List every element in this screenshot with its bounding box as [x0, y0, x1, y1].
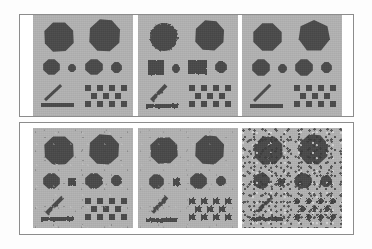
large-blob-right: [298, 20, 330, 51]
diagonal-line: [253, 84, 271, 102]
horizontal-bar: [146, 104, 178, 108]
checkerboard-pattern: [294, 198, 338, 222]
large-blob-right: [88, 19, 121, 52]
medium-shape-4: [111, 175, 122, 186]
large-blob-left: [150, 23, 178, 51]
panel-content: [33, 15, 133, 116]
checkerboard-pattern: [85, 198, 129, 222]
horizontal-bar: [146, 218, 177, 222]
medium-shape-2: [172, 64, 180, 73]
panel-bottom-center: [138, 128, 238, 228]
checkerboard-pattern: [85, 85, 129, 109]
panel-bottom-right: [242, 128, 342, 228]
panel-top-center: [138, 15, 238, 116]
medium-shape-1: [149, 174, 164, 189]
medium-shape-1: [252, 59, 270, 76]
medium-shape-3: [85, 173, 103, 189]
panel-bottom-left: [33, 128, 133, 228]
diagonal-line: [151, 196, 168, 214]
medium-shape-2: [278, 64, 287, 73]
medium-shape-3: [85, 59, 103, 75]
medium-shape-4: [216, 176, 226, 186]
panel-content: [33, 128, 133, 228]
large-blob-left: [150, 137, 178, 164]
medium-shape-2: [173, 178, 180, 186]
large-blob-right: [88, 134, 120, 165]
medium-shape-4: [320, 175, 332, 187]
medium-shape-3: [188, 60, 207, 74]
horizontal-bar: [250, 104, 283, 108]
diagonal-line: [44, 84, 62, 101]
checkerboard-pattern: [189, 198, 233, 222]
medium-shape-1: [148, 60, 164, 75]
panel-content: [242, 15, 342, 116]
large-blob-right: [194, 20, 225, 51]
large-blob-right: [194, 135, 225, 165]
large-blob-left: [44, 22, 74, 52]
panel-content: [242, 128, 342, 228]
medium-shape-4: [321, 62, 332, 73]
medium-shape-1: [43, 59, 60, 75]
large-blob-left: [44, 136, 74, 165]
horizontal-bar: [41, 217, 74, 221]
diagonal-line: [45, 196, 63, 214]
medium-shape-2: [68, 178, 76, 186]
diagonal-line: [254, 196, 273, 215]
medium-shape-3: [295, 59, 313, 76]
morphology-figure: [0, 0, 372, 249]
medium-shape-3: [294, 173, 312, 189]
panel-top-right: [242, 15, 342, 116]
figure-row-bottom: [19, 122, 354, 235]
medium-shape-1: [253, 173, 270, 189]
figure-row-top: [19, 14, 354, 117]
checkerboard-pattern: [294, 85, 338, 109]
diagonal-line: [150, 84, 167, 102]
medium-shape-4: [111, 62, 122, 73]
large-blob-left: [254, 136, 283, 165]
panel-content: [138, 128, 238, 228]
panel-top-left: [33, 15, 133, 116]
panel-content: [138, 15, 238, 116]
horizontal-bar: [250, 217, 283, 221]
medium-shape-4: [215, 61, 227, 73]
medium-shape-3: [190, 173, 207, 189]
checkerboard-pattern: [189, 85, 233, 109]
large-blob-left: [253, 23, 282, 51]
medium-shape-1: [43, 173, 60, 189]
medium-shape-2: [277, 178, 285, 186]
large-blob-right: [298, 134, 329, 165]
medium-shape-2: [68, 64, 76, 72]
horizontal-bar: [41, 103, 74, 107]
